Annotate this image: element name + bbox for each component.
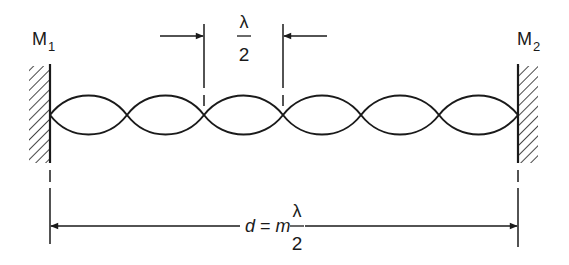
half-wavelength-numerator: λ — [240, 12, 249, 32]
mirror-m2: M2 — [517, 29, 540, 163]
half-wavelength-denominator: 2 — [239, 44, 250, 65]
half-wavelength-marker: λ 2 — [160, 12, 327, 106]
cavity-length-numerator: λ — [293, 201, 302, 221]
mirror-m2-label: M2 — [517, 29, 540, 54]
cavity-length-equation: d = m — [245, 216, 291, 236]
standing-wave-diagram: M1 M2 λ 2 d = m — [0, 0, 569, 265]
standing-wave — [50, 96, 518, 135]
mirror-m2-hatching — [519, 66, 538, 163]
mirror-m1-hatching — [29, 66, 49, 163]
cavity-length-dimension: d = m λ 2 — [50, 170, 518, 254]
cavity-length-denominator: 2 — [292, 233, 303, 254]
mirror-m1-label: M1 — [32, 29, 55, 54]
mirror-m1: M1 — [29, 29, 55, 163]
wave-envelope-lower — [50, 96, 518, 135]
